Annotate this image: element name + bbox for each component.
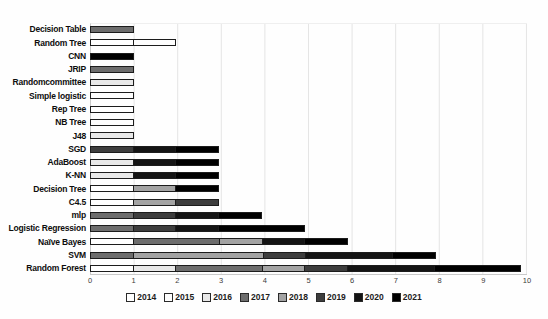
- legend-label: 2020: [365, 293, 384, 302]
- bar-track: [90, 212, 527, 219]
- bar-segment-2014: [90, 265, 134, 272]
- category-label: Random Tree: [4, 39, 90, 48]
- bar-track: [90, 172, 527, 179]
- category-label: SGD: [4, 145, 90, 154]
- legend-swatch-icon: [316, 293, 325, 302]
- bar-segment-2018: [219, 238, 263, 245]
- bar-segment-2020: [175, 212, 219, 219]
- bar-row: J48: [4, 129, 527, 142]
- bar-segment-2016: [90, 172, 134, 179]
- category-label: Random Forest: [4, 264, 90, 273]
- bar-track: [90, 199, 527, 206]
- bar-row: C4.5: [4, 195, 527, 208]
- legend-label: 2021: [403, 293, 422, 302]
- bar-segment-2019: [304, 265, 348, 272]
- bar-track: [90, 66, 527, 73]
- bar-segment-2017: [175, 265, 262, 272]
- category-label: J48: [4, 132, 90, 141]
- bar-segment-2021: [175, 185, 219, 192]
- bar-track: [90, 225, 527, 232]
- bar-segment-2015: [133, 39, 177, 46]
- bar-row: Simple logistic: [4, 89, 527, 102]
- legend-swatch-icon: [202, 293, 211, 302]
- legend-item: 2015: [164, 293, 194, 302]
- bar-track: [90, 26, 527, 33]
- legend-label: 2019: [327, 293, 346, 302]
- bar-row: Randomcommittee: [4, 76, 527, 89]
- bar-segment-2015: [90, 119, 134, 126]
- bar-track: [90, 79, 527, 86]
- bar-segment-2017: [90, 26, 134, 33]
- bar-segment-2018: [133, 199, 177, 206]
- bar-segment-2019: [133, 225, 177, 232]
- bar-track: [90, 92, 527, 99]
- bar-track: [90, 252, 527, 259]
- bar-segment-2021: [175, 172, 219, 179]
- bar-rows: Decision TableRandom TreeCNNJRIPRandomco…: [4, 23, 527, 275]
- legend-swatch-icon: [126, 293, 135, 302]
- x-tick-label: 3: [219, 277, 223, 285]
- bar-segment-2021: [175, 159, 219, 166]
- legend-label: 2015: [175, 293, 194, 302]
- bar-row: Logistic Regression: [4, 222, 527, 235]
- bar-segment-2020: [262, 238, 306, 245]
- bar-row: mlp: [4, 209, 527, 222]
- bar-segment-2021: [175, 146, 219, 153]
- category-label: NB Tree: [4, 118, 90, 127]
- bar-track: [90, 106, 527, 113]
- bar-segment-2021: [218, 225, 305, 232]
- x-tick-label: 2: [175, 277, 179, 285]
- bar-segment-2014: [90, 106, 134, 113]
- legend-swatch-icon: [354, 293, 363, 302]
- x-tick-label: 1: [132, 277, 136, 285]
- bar-segment-2020: [305, 252, 392, 259]
- bar-segment-2018: [133, 252, 264, 259]
- bar-segment-2018: [133, 185, 177, 192]
- legend-item: 2021: [392, 293, 422, 302]
- bar-row: Rep Tree: [4, 103, 527, 116]
- legend-label: 2018: [289, 293, 308, 302]
- bar-track: [90, 146, 527, 153]
- x-tick-label: 9: [481, 277, 485, 285]
- bar-segment-2016: [133, 265, 177, 272]
- x-tick-label: 8: [438, 277, 442, 285]
- bar-track: [90, 119, 527, 126]
- legend: 20142015201620172018201920202021: [0, 293, 548, 302]
- bar-row: Decision Table: [4, 23, 527, 36]
- bar-segment-2019: [133, 212, 177, 219]
- legend-item: 2014: [126, 293, 156, 302]
- bar-track: [90, 132, 527, 139]
- bar-segment-2016: [90, 159, 134, 166]
- bar-segment-2021: [392, 252, 436, 259]
- legend-item: 2016: [202, 293, 232, 302]
- category-label: mlp: [4, 211, 90, 220]
- bar-row: SGD: [4, 142, 527, 155]
- bar-segment-2020: [347, 265, 434, 272]
- bar-row: NB Tree: [4, 116, 527, 129]
- x-tick-label: 10: [523, 277, 531, 285]
- category-label: Randomcommittee: [4, 78, 90, 87]
- bar-row: K-NN: [4, 169, 527, 182]
- bar-segment-2021: [434, 265, 521, 272]
- bar-segment-2017: [90, 212, 134, 219]
- category-label: Decision Tree: [4, 185, 90, 194]
- bar-track: [90, 185, 527, 192]
- x-tick-label: 4: [263, 277, 267, 285]
- category-label: Logistic Regression: [4, 224, 90, 233]
- legend-label: 2014: [137, 293, 156, 302]
- bar-segment-2019: [175, 199, 219, 206]
- bar-row: SVM: [4, 249, 527, 262]
- category-label: Decision Table: [4, 25, 90, 34]
- bar-segment-2021: [218, 212, 262, 219]
- bar-track: [90, 53, 527, 60]
- plot-area: Decision TableRandom TreeCNNJRIPRandomco…: [4, 23, 527, 275]
- category-label: C4.5: [4, 198, 90, 207]
- bar-segment-2017: [90, 225, 134, 232]
- bar-segment-2014: [90, 238, 134, 245]
- legend-item: 2018: [278, 293, 308, 302]
- bar-segment-2020: [133, 146, 177, 153]
- bar-segment-2020: [133, 159, 177, 166]
- bar-segment-2014: [90, 39, 134, 46]
- bar-row: Naïve Bayes: [4, 235, 527, 248]
- legend-item: 2017: [240, 293, 270, 302]
